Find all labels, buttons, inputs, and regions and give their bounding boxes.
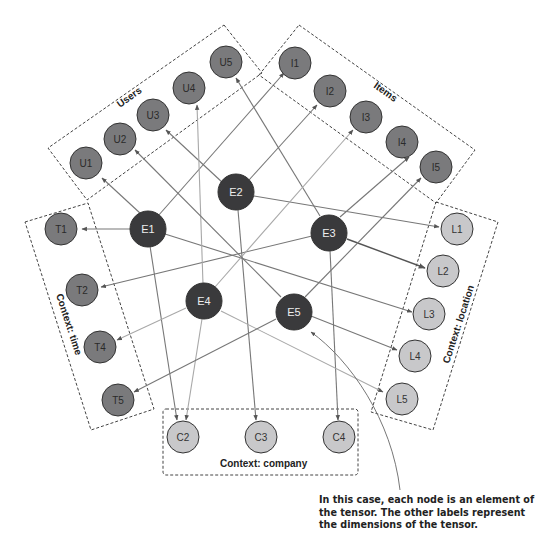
company-label: Context: company <box>220 458 308 469</box>
node-u5: U5 <box>210 46 242 78</box>
svg-text:I3: I3 <box>362 112 371 123</box>
node-u4: U4 <box>173 72 205 104</box>
svg-text:L2: L2 <box>437 266 449 277</box>
edge-e5-l4 <box>311 316 397 350</box>
edge-e3-i4 <box>340 157 409 217</box>
edge-e4-c2 <box>186 319 202 420</box>
svg-text:E1: E1 <box>141 223 154 235</box>
node-c4: C4 <box>323 421 355 453</box>
edge-e3-c4 <box>330 250 338 420</box>
svg-text:T5: T5 <box>112 395 124 406</box>
svg-text:I2: I2 <box>326 86 335 97</box>
node-e5: E5 <box>276 294 312 330</box>
svg-text:T4: T4 <box>94 342 106 353</box>
node-i5: I5 <box>420 151 452 183</box>
svg-text:C2: C2 <box>177 432 190 443</box>
edge-e3-t2 <box>101 236 312 287</box>
annotation-pointer <box>311 332 400 490</box>
svg-text:E2: E2 <box>229 186 242 198</box>
node-i2: I2 <box>314 75 346 107</box>
node-i4: I4 <box>386 126 418 158</box>
node-t1: T1 <box>45 213 77 245</box>
svg-text:E5: E5 <box>287 306 300 318</box>
edge-e2-c3 <box>238 210 256 420</box>
node-l5: L5 <box>386 383 418 415</box>
edge-e1-u1 <box>102 178 141 214</box>
node-l3: L3 <box>413 298 445 330</box>
svg-text:U5: U5 <box>220 57 233 68</box>
location-label: Context: location <box>440 284 476 365</box>
node-t5: T5 <box>102 384 134 416</box>
svg-text:L4: L4 <box>409 351 421 362</box>
edge-e4-u4 <box>197 105 203 284</box>
edge-e4-t4 <box>117 308 186 340</box>
node-c2: C2 <box>167 421 199 453</box>
svg-text:C3: C3 <box>255 432 268 443</box>
node-u1: U1 <box>70 147 102 179</box>
node-e3: E3 <box>311 215 347 251</box>
node-t4: T4 <box>84 331 116 363</box>
node-i1: I1 <box>279 47 311 79</box>
node-l1: L1 <box>441 213 473 245</box>
annotation-text: In this case, each node is an element of… <box>319 494 539 532</box>
svg-text:L5: L5 <box>396 394 408 405</box>
edges <box>82 73 439 420</box>
svg-text:L3: L3 <box>423 309 435 320</box>
svg-text:L1: L1 <box>451 224 463 235</box>
svg-text:E4: E4 <box>197 295 210 307</box>
edge-e3-l2 <box>347 239 425 268</box>
node-i3: I3 <box>350 101 382 133</box>
svg-text:U4: U4 <box>183 83 196 94</box>
svg-text:E3: E3 <box>322 227 335 239</box>
node-t2: T2 <box>66 274 98 306</box>
node-u2: U2 <box>104 123 136 155</box>
node-l4: L4 <box>399 340 431 372</box>
svg-text:U2: U2 <box>114 134 127 145</box>
svg-text:T1: T1 <box>55 224 67 235</box>
node-l2: L2 <box>427 255 459 287</box>
svg-text:I5: I5 <box>432 162 441 173</box>
edge-e5-t5 <box>134 319 276 392</box>
node-e1: E1 <box>130 211 166 247</box>
svg-text:I4: I4 <box>398 137 407 148</box>
svg-text:T2: T2 <box>76 285 88 296</box>
svg-text:U3: U3 <box>147 110 160 121</box>
node-e4: E4 <box>186 283 222 319</box>
svg-text:I1: I1 <box>291 58 300 69</box>
node-e2: E2 <box>218 174 254 210</box>
node-u3: U3 <box>137 99 169 131</box>
items-label: Items <box>372 80 400 105</box>
svg-text:U1: U1 <box>80 158 93 169</box>
svg-text:C4: C4 <box>333 432 346 443</box>
node-c3: C3 <box>245 421 277 453</box>
